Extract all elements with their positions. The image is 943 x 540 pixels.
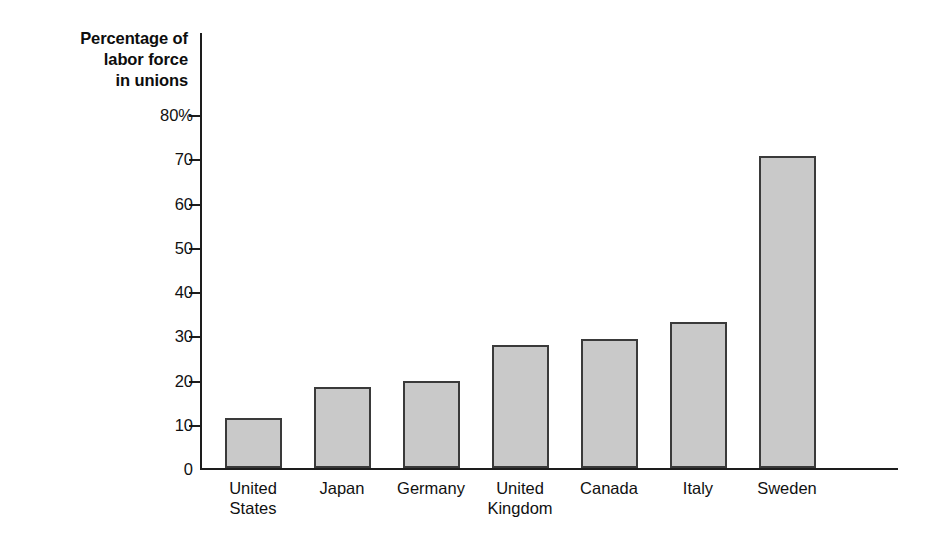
x-axis-label-italy: Italy	[654, 478, 743, 498]
x-axis-label-line: States	[209, 498, 298, 518]
x-axis-label-canada: Canada	[565, 478, 654, 498]
x-axis-label-line: Kingdom	[476, 498, 565, 518]
y-axis-title-line-3: in unions	[18, 70, 188, 91]
x-axis-label-sweden: Sweden	[743, 478, 832, 498]
y-axis-tick-label: 20	[175, 370, 193, 392]
y-axis-title-line-1: Percentage of	[18, 28, 188, 49]
x-axis-label-united-states: UnitedStates	[209, 478, 298, 518]
y-axis-title-line-2: labor force	[18, 49, 188, 70]
x-axis-label-germany: Germany	[387, 478, 476, 498]
chart-y-axis-title: Percentage of labor force in unions	[18, 28, 188, 91]
bar-chart: Percentage of labor force in unions 80%7…	[0, 0, 943, 540]
y-axis-tick-label: 40	[175, 281, 193, 303]
y-axis-tick-label: 70	[175, 148, 193, 170]
x-axis-label-united-kingdom: UnitedKingdom	[476, 478, 565, 518]
bars-layer	[200, 33, 898, 470]
x-axis-label-japan: Japan	[298, 478, 387, 498]
y-axis-tick-label: 80%	[160, 104, 193, 126]
bar-united-states	[225, 418, 282, 468]
x-axis-label-line: Sweden	[743, 478, 832, 498]
bar-united-kingdom	[492, 345, 549, 468]
x-axis-label-line: Japan	[298, 478, 387, 498]
bar-japan	[314, 387, 371, 468]
y-axis-tick-label: 0	[184, 458, 193, 480]
bar-sweden	[759, 156, 816, 468]
x-axis-label-line: United	[209, 478, 298, 498]
x-axis-label-line: United	[476, 478, 565, 498]
bar-germany	[403, 381, 460, 468]
bar-italy	[670, 322, 727, 468]
y-axis-tick-label: 30	[175, 325, 193, 347]
y-axis-tick-label: 50	[175, 237, 193, 259]
x-axis-label-line: Germany	[387, 478, 476, 498]
x-axis-label-line: Italy	[654, 478, 743, 498]
x-axis-category-labels: UnitedStatesJapanGermanyUnitedKingdomCan…	[200, 478, 900, 536]
plot-area: 80%706050403020100	[200, 33, 898, 470]
y-axis-tick-label: 10	[175, 414, 193, 436]
bar-canada	[581, 339, 638, 468]
x-axis-label-line: Canada	[565, 478, 654, 498]
y-axis-tick-label: 60	[175, 193, 193, 215]
